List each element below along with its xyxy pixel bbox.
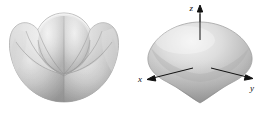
right-surface-svg: z x y [133,0,266,115]
right-lower-shadow [133,60,266,115]
figure-root: z x y [0,0,266,115]
left-surface-svg [0,0,133,115]
z-axis-label: z [188,3,193,13]
left-sheen-overlay [0,0,133,115]
right-figure-panel: z x y [133,0,266,115]
right-top-highlight [155,26,215,54]
left-lobe-group [0,0,133,115]
left-figure-panel [0,0,133,115]
x-axis-label: x [137,74,142,84]
y-axis-label: y [249,83,254,93]
